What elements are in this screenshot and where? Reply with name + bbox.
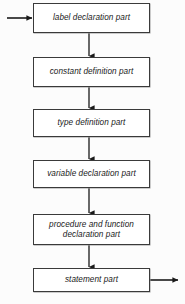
node-procedure-and-function-declaration-part[interactable]: procedure and function declaration part xyxy=(33,214,150,245)
flowchart-connector-layer xyxy=(0,0,185,304)
node-variable-declaration-part[interactable]: variable declaration part xyxy=(33,160,150,188)
node-label-text: statement part xyxy=(62,275,121,285)
node-label-text: constant definition part xyxy=(47,67,137,77)
node-statement-part[interactable]: statement part xyxy=(33,268,150,292)
node-label-text: procedure and function declaration part xyxy=(46,220,137,240)
flowchart-diagram: label declaration part constant definiti… xyxy=(0,0,185,304)
node-label-text: type definition part xyxy=(55,118,129,128)
node-label-declaration-part[interactable]: label declaration part xyxy=(33,3,150,33)
node-label-text: variable declaration part xyxy=(44,169,139,179)
node-constant-definition-part[interactable]: constant definition part xyxy=(33,57,150,87)
node-label-text: label declaration part xyxy=(50,13,133,23)
node-type-definition-part[interactable]: type definition part xyxy=(33,109,150,137)
